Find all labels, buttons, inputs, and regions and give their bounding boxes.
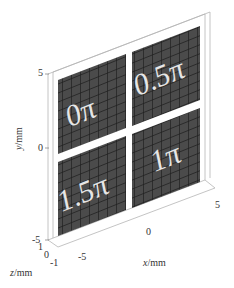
x-tick-neg5: -5 (78, 252, 86, 262)
x-tick-5: 5 (215, 200, 220, 210)
x-axis-label: x/mm (143, 258, 166, 268)
y-axis-label: y/mm (14, 127, 24, 150)
y-tick-0: 0 (38, 143, 43, 153)
z-tick-neg1: -1 (50, 258, 58, 268)
z-tick-1: 1 (38, 242, 43, 252)
x-tick-0: 0 (146, 227, 151, 237)
z-tick-0: 0 (44, 250, 49, 260)
y-tick-5: 5 (38, 68, 43, 78)
z-axis-label: z/mm (10, 268, 32, 278)
